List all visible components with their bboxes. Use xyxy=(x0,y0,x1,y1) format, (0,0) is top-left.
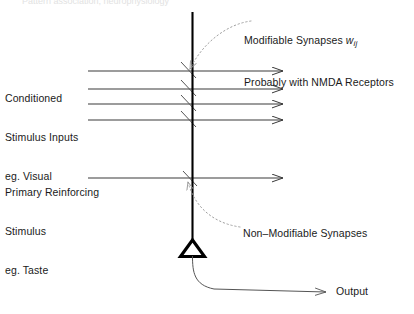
modifiable-synapses-pointer xyxy=(190,21,251,69)
modifiable-synapses-line1: Modifiable Synapses wij xyxy=(244,34,394,50)
conditioned-stimulus-line2: Stimulus Inputs xyxy=(5,131,78,144)
figure-canvas: Pattern association, neurophysiology xyxy=(0,0,414,314)
soma-triangle xyxy=(181,240,205,257)
primary-reinforcing-line2: Stimulus xyxy=(5,225,99,238)
non-modifiable-synapses-pointer xyxy=(188,182,240,227)
synapse-mark-2 xyxy=(181,80,196,96)
output-label: Output xyxy=(336,285,368,298)
synapse-mark-1 xyxy=(181,62,196,78)
conditioned-stimulus-line1: Conditioned xyxy=(5,92,78,105)
non-modifiable-synapses-label: Non–Modifiable Synapses xyxy=(243,227,367,240)
modifiable-synapse-marks xyxy=(181,62,196,127)
synapse-mark-4 xyxy=(181,111,196,127)
primary-reinforcing-line1: Primary Reinforcing xyxy=(5,186,99,199)
modifiable-synapses-label: Modifiable Synapses wij Probably with NM… xyxy=(244,8,394,115)
synapse-mark-3 xyxy=(181,95,196,111)
modifiable-synapses-line2: Probably with NMDA Receptors xyxy=(244,76,394,89)
primary-reinforcing-line3: eg. Taste xyxy=(5,264,99,277)
output-axon xyxy=(193,256,327,292)
primary-reinforcing-stimulus-label: Primary Reinforcing Stimulus eg. Taste xyxy=(5,160,99,303)
